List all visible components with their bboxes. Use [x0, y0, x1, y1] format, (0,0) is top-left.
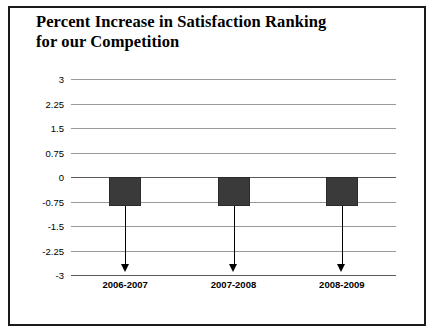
plot-area: 32.251.50.750-0.75-1.5-2.25-32006-200720… [71, 79, 396, 275]
y-axis-tick-label: 2.25 [46, 98, 65, 109]
gridline [71, 275, 396, 276]
chart-title-line-1: Percent Increase in Satisfaction Ranking [36, 12, 326, 31]
bar [109, 177, 141, 206]
bar [218, 177, 250, 206]
y-axis-tick-label: -1.5 [48, 221, 64, 232]
gridline [71, 128, 396, 129]
y-axis-tick-label: 1.5 [51, 123, 64, 134]
down-arrow-shaft [234, 206, 235, 264]
x-axis-category-label: 2007-2008 [211, 279, 256, 290]
gridline [71, 104, 396, 105]
x-axis-category-label: 2006-2007 [102, 279, 147, 290]
chart-title-line-2: for our Competition [36, 32, 386, 52]
gridline [71, 153, 396, 154]
gridline [71, 79, 396, 80]
down-arrow-shaft [342, 206, 343, 264]
down-arrow-head [337, 264, 345, 272]
chart-figure: Percent Increase in Satisfaction Ranking… [0, 0, 434, 334]
y-axis-tick-label: 0.75 [46, 147, 65, 158]
x-axis-category-label: 2008-2009 [319, 279, 364, 290]
bar [326, 177, 358, 206]
y-axis-tick-label: -2.25 [42, 245, 64, 256]
down-arrow-head [121, 264, 129, 272]
y-axis-tick-label: 0 [59, 172, 64, 183]
y-axis-tick-label: -3 [56, 270, 64, 281]
down-arrow-shaft [125, 206, 126, 264]
y-axis-tick-label: -0.75 [42, 196, 64, 207]
chart-title: Percent Increase in Satisfaction Ranking… [36, 12, 386, 52]
y-axis-tick-label: 3 [59, 74, 64, 85]
down-arrow-head [229, 264, 237, 272]
